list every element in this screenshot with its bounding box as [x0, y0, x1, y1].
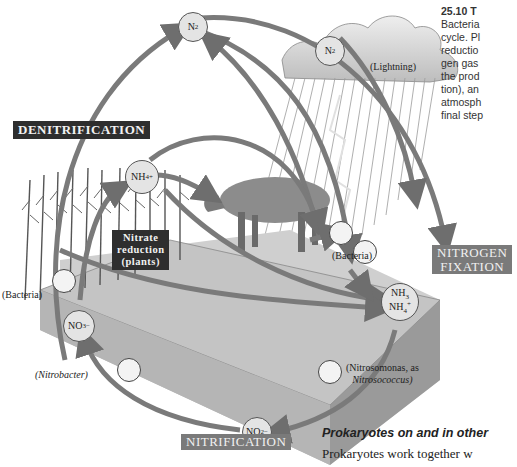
no3-node: NO3−: [63, 310, 95, 342]
nh3-nh4-node: NH3 NH4+: [381, 283, 419, 321]
nitrate-reduction-label: Nitrate reduction (plants): [112, 230, 169, 270]
nitrogen-fixation-label: NITROGEN FIXATION: [432, 245, 512, 274]
nitrosomonas-annotation: (Nitrosomonas, as Nitrosococcus): [346, 362, 419, 386]
nh4-node-plants: NH4+: [125, 160, 159, 194]
nitrobacter-annotation: (Nitrobacter): [35, 369, 88, 380]
denitrification-label: DENITRIFICATION: [13, 121, 150, 139]
nitrogen-cycle-diagram: N2 N2 NH4+ NO3− NH3 NH4+ NO2− DENITRIFIC…: [0, 0, 517, 467]
section-heading: Prokaryotes on and in other: [322, 426, 488, 440]
bacteria-icon: [52, 269, 76, 293]
body-paragraph: Prokaryotes work together w: [322, 446, 473, 462]
nitrification-label: NITRIFICATION: [181, 434, 291, 450]
n2-node-cloud: N2: [315, 36, 345, 66]
diagram-artwork: [0, 0, 517, 467]
bacteria-annotation-right: (Bacteria): [332, 250, 372, 261]
bacteria-icon: [318, 360, 342, 384]
figure-caption: 25.10 T Bacteria cycle. Pl reductio gen …: [441, 5, 483, 122]
bacteria-icon: [117, 358, 141, 382]
bacteria-icon: [329, 221, 353, 245]
n2-node-top: N2: [178, 12, 208, 42]
bacteria-annotation-left: (Bacteria): [2, 289, 42, 300]
lightning-annotation: (Lightning): [370, 61, 416, 72]
